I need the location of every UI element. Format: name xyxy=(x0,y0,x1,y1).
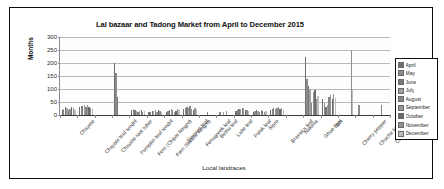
legend-label: October xyxy=(406,112,424,121)
y-tick-label: 300 xyxy=(47,34,57,40)
legend-item[interactable]: September xyxy=(398,103,436,112)
bar-group xyxy=(201,37,215,115)
legend-swatch-icon xyxy=(398,105,404,111)
x-tick-mark xyxy=(390,115,391,118)
bar xyxy=(352,90,353,115)
legend-item[interactable]: December xyxy=(398,129,436,138)
chart-legend: AprilMayJuneJulyAugustSeptemberOctoberNo… xyxy=(395,58,438,140)
legend-swatch-icon xyxy=(398,122,404,128)
legend-item[interactable]: May xyxy=(398,69,436,78)
legend-label: December xyxy=(406,129,429,138)
y-tick-label: 100 xyxy=(47,86,57,92)
legend-label: August xyxy=(406,95,422,104)
legend-item[interactable]: October xyxy=(398,112,436,121)
legend-item[interactable]: June xyxy=(398,78,436,87)
x-axis-labels: ChayoteChayote leaf tendrilChayote root … xyxy=(59,118,389,162)
bar xyxy=(207,112,208,115)
bar-group xyxy=(235,37,249,115)
bar-group xyxy=(79,37,93,115)
y-tick-mark xyxy=(58,37,61,38)
y-axis-title: Months xyxy=(27,37,34,60)
y-tick-label: 200 xyxy=(47,60,57,66)
legend-label: November xyxy=(406,121,429,130)
bar-group xyxy=(131,37,145,115)
bar-group xyxy=(183,37,197,115)
bar-group xyxy=(114,37,128,115)
bar-group xyxy=(166,37,180,115)
bar-group xyxy=(148,37,162,115)
legend-item[interactable]: July xyxy=(398,86,436,95)
legend-swatch-icon xyxy=(398,96,404,102)
bar-group xyxy=(96,37,110,115)
plot-area: 050100150200250300 xyxy=(59,37,390,116)
legend-swatch-icon xyxy=(398,131,404,137)
bar xyxy=(335,98,336,115)
legend-item[interactable]: November xyxy=(398,121,436,130)
bar xyxy=(223,112,224,115)
bar xyxy=(248,111,249,115)
legend-label: June xyxy=(406,78,417,87)
bar-group xyxy=(218,37,232,115)
bar-group xyxy=(305,37,319,115)
bar xyxy=(317,96,318,116)
bar xyxy=(92,109,93,115)
bar xyxy=(178,110,179,115)
chart-figure-frame: Lal bazaar and Tadong Market from April … xyxy=(9,7,433,179)
legend-label: April xyxy=(406,61,416,70)
bar xyxy=(117,97,118,115)
legend-item[interactable]: April xyxy=(398,61,436,70)
y-tick-label: 150 xyxy=(47,73,57,79)
bar-group xyxy=(339,37,353,115)
bar-group xyxy=(322,37,336,115)
y-tick-mark xyxy=(58,76,61,77)
legend-label: September xyxy=(406,103,430,112)
bar-group xyxy=(253,37,267,115)
bar xyxy=(358,105,359,115)
legend-swatch-icon xyxy=(398,113,404,119)
bar xyxy=(283,110,284,115)
bar-group xyxy=(62,37,76,115)
legend-swatch-icon xyxy=(398,62,404,68)
bar xyxy=(74,110,75,115)
legend-item[interactable]: August xyxy=(398,95,436,104)
y-tick-mark xyxy=(58,102,61,103)
legend-label: July xyxy=(406,86,415,95)
bar-group xyxy=(374,37,388,115)
chart-title: Lal bazaar and Tadong Market from April … xyxy=(70,20,330,29)
y-tick-mark xyxy=(58,50,61,51)
bar xyxy=(161,112,162,115)
y-tick-mark xyxy=(58,63,61,64)
legend-label: May xyxy=(406,69,415,78)
legend-swatch-icon xyxy=(398,70,404,76)
bar xyxy=(381,105,382,115)
x-axis-title: Local landraces xyxy=(59,164,389,171)
legend-swatch-icon xyxy=(398,88,404,94)
y-tick-mark xyxy=(58,89,61,90)
bar-group xyxy=(287,37,301,115)
bar xyxy=(196,109,197,115)
bar-group xyxy=(270,37,284,115)
bar-group xyxy=(357,37,371,115)
bar xyxy=(226,111,227,115)
bar xyxy=(219,112,220,115)
y-tick-label: 250 xyxy=(47,47,57,53)
bar xyxy=(144,111,145,115)
legend-swatch-icon xyxy=(398,79,404,85)
y-tick-label: 50 xyxy=(50,99,57,105)
x-tick-label: Chayote xyxy=(78,118,96,136)
y-tick-label: 0 xyxy=(54,112,57,118)
bar xyxy=(265,111,266,115)
